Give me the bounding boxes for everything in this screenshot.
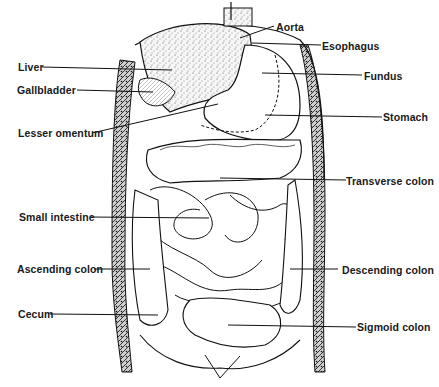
label-fundus: Fundus: [364, 70, 403, 82]
label-lesser-omentum: Lesser omentum: [18, 127, 103, 139]
label-esophagus: Esophagus: [322, 40, 380, 52]
label-cecum: Cecum: [18, 308, 54, 320]
small-intestine-shape: [150, 187, 291, 314]
transverse-colon-shape: [146, 139, 301, 183]
label-stomach: Stomach: [383, 111, 428, 123]
label-small-intestine: Small intestine: [19, 211, 95, 223]
label-liver: Liver: [18, 61, 44, 73]
label-aorta: Aorta: [276, 21, 304, 33]
label-ascending-colon: Ascending colon: [17, 263, 103, 275]
label-sigmoid-colon: Sigmoid colon: [357, 321, 431, 333]
label-gallbladder: Gallbladder: [17, 84, 76, 96]
anatomy-diagram: Liver Gallbladder Lesser omentum Small i…: [0, 0, 439, 387]
label-transverse-colon: Transverse colon: [346, 175, 434, 187]
label-descending-colon: Descending colon: [342, 264, 434, 276]
